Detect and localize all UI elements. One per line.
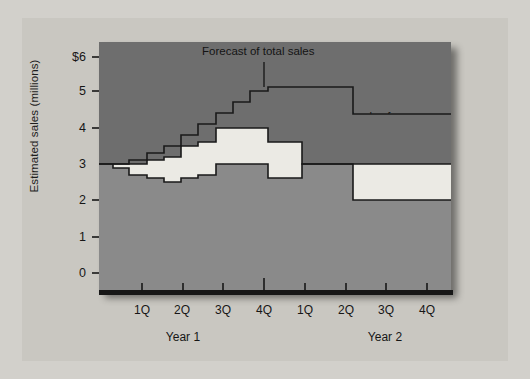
chart-page: Estimated sales (millions) $6 5 4 3 2 1 … [0,0,530,379]
chart-svg [0,0,530,379]
y-axis-ticks [92,57,99,273]
x-axis-line [99,290,453,295]
